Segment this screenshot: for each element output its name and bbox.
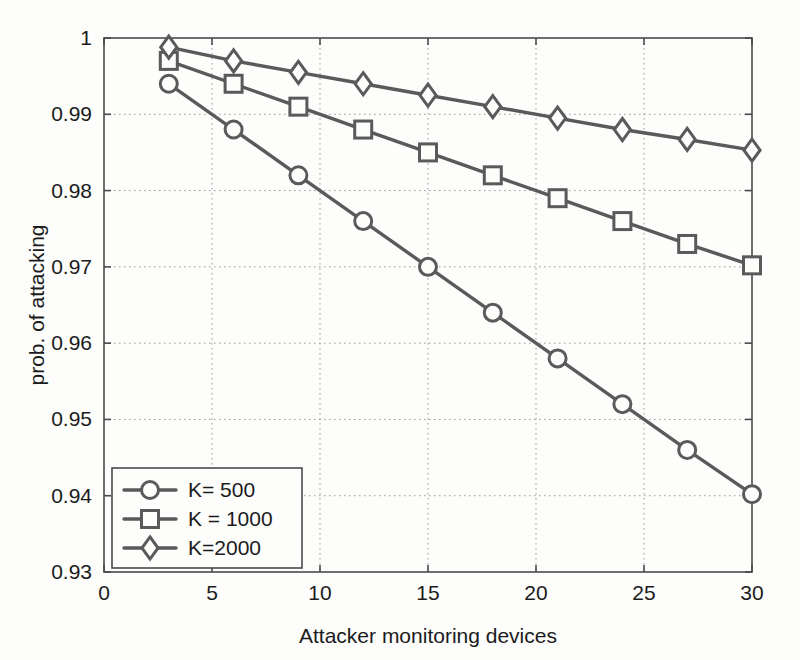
x-tick-label: 20 (524, 581, 547, 604)
legend-circle-marker (142, 482, 159, 499)
series-line (169, 84, 752, 494)
square-marker (614, 213, 631, 230)
data-series-layer (160, 36, 760, 503)
legend-label: K=2000 (188, 536, 261, 559)
circle-marker (549, 350, 566, 367)
circle-marker (744, 486, 761, 503)
y-tick-label: 0.96 (51, 331, 92, 354)
diamond-marker (355, 73, 371, 95)
y-axis-title: prob. of attacking (25, 224, 48, 385)
legend-label: K= 500 (188, 478, 255, 501)
diamond-marker (226, 50, 242, 72)
x-tick-label: 10 (308, 581, 331, 604)
x-axis-title: Attacker monitoring devices (299, 624, 557, 647)
diamond-marker (420, 84, 436, 106)
square-marker (744, 257, 761, 274)
circle-marker (484, 304, 501, 321)
diamond-marker (679, 128, 695, 150)
legend-label: K = 1000 (188, 507, 273, 530)
circle-marker (225, 121, 242, 138)
circle-marker (614, 396, 631, 413)
y-tick-label: 1 (80, 26, 92, 49)
diamond-marker (744, 139, 760, 161)
square-marker (355, 121, 372, 138)
circle-marker (679, 441, 696, 458)
diamond-marker (290, 61, 306, 83)
circle-marker (355, 213, 372, 230)
square-marker (420, 144, 437, 161)
series-2 (160, 52, 760, 273)
diamond-marker (485, 96, 501, 118)
square-marker (679, 235, 696, 252)
x-tick-label: 5 (206, 581, 218, 604)
x-tick-label: 30 (740, 581, 763, 604)
y-tick-label: 0.98 (51, 179, 92, 202)
diamond-marker (614, 118, 630, 140)
series-1 (160, 75, 760, 502)
y-tick-label: 0.95 (51, 407, 92, 430)
x-tick-label: 0 (98, 581, 110, 604)
legend-entry-2[interactable]: K = 1000 (124, 507, 273, 530)
square-marker (549, 190, 566, 207)
circle-marker (420, 258, 437, 275)
square-marker (290, 98, 307, 115)
legend-square-marker (142, 511, 159, 528)
circle-marker (160, 75, 177, 92)
square-marker (484, 167, 501, 184)
chart-svg: 0.930.940.950.960.970.980.99105101520253… (0, 0, 800, 660)
x-tick-label: 15 (416, 581, 439, 604)
circle-marker (290, 167, 307, 184)
y-tick-label: 0.93 (51, 560, 92, 583)
x-tick-label: 25 (632, 581, 655, 604)
y-tick-label: 0.94 (51, 484, 92, 507)
legend[interactable]: K= 500K = 1000K=2000 (112, 468, 302, 568)
square-marker (225, 75, 242, 92)
y-tick-label: 0.97 (51, 255, 92, 278)
figure-canvas: 0.930.940.950.960.970.980.99105101520253… (0, 0, 800, 660)
series-line (169, 47, 752, 150)
series-line (169, 61, 752, 265)
diamond-marker (550, 107, 566, 129)
y-tick-label: 0.99 (51, 102, 92, 125)
